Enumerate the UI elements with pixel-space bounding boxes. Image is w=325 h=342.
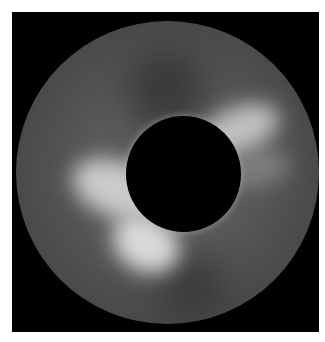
occulting-disk bbox=[126, 116, 241, 232]
corona-image bbox=[16, 21, 319, 324]
